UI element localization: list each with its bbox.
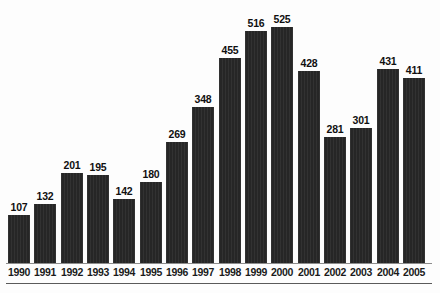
bar-value-label: 269 [158, 129, 196, 140]
bar-group: 107 [8, 0, 30, 263]
bar-group: 516 [245, 0, 267, 263]
plot-area: 1071322011951421802693484555165254282813… [0, 0, 440, 263]
bar [113, 199, 135, 263]
bar [377, 69, 399, 263]
bar-group: 201 [61, 0, 83, 263]
x-axis-line [6, 263, 432, 264]
x-axis-tick-labels: 1990199119921993199419951996199719981999… [0, 266, 440, 280]
bar-chart-figure: 1071322011951421802693484555165254282813… [0, 0, 440, 293]
bar [8, 215, 30, 263]
bar-group: 132 [34, 0, 56, 263]
bar [219, 58, 241, 263]
bar-value-label: 411 [395, 65, 433, 76]
figure-caption [8, 286, 432, 293]
bar [34, 204, 56, 263]
footer-divider [6, 283, 432, 284]
bar [403, 78, 425, 263]
bar-value-label: 142 [105, 186, 143, 197]
bar-value-label: 525 [263, 14, 301, 25]
bar-value-label: 428 [290, 58, 328, 69]
bar-group: 525 [271, 0, 293, 263]
bar-value-label: 195 [79, 162, 117, 173]
bar [140, 182, 162, 263]
bar-group: 269 [166, 0, 188, 263]
bar-group: 348 [192, 0, 214, 263]
x-axis-label: 2005 [395, 266, 433, 279]
bar-group: 301 [350, 0, 372, 263]
bar [166, 142, 188, 263]
bar [350, 128, 372, 263]
bar [298, 71, 320, 263]
bar [324, 137, 346, 263]
bar-group: 431 [377, 0, 399, 263]
bar-group: 195 [87, 0, 109, 263]
bar-value-label: 348 [184, 94, 222, 105]
bar-group: 281 [324, 0, 346, 263]
bar-group: 455 [219, 0, 241, 263]
bar-value-label: 132 [26, 191, 64, 202]
bar [245, 31, 267, 263]
bar-group: 411 [403, 0, 425, 263]
bar-value-label: 455 [211, 45, 249, 56]
bar-value-label: 180 [132, 169, 170, 180]
bar-value-label: 107 [0, 202, 38, 213]
bar-group: 142 [113, 0, 135, 263]
bar [61, 173, 83, 263]
bar-value-label: 301 [342, 115, 380, 126]
bar [192, 107, 214, 263]
